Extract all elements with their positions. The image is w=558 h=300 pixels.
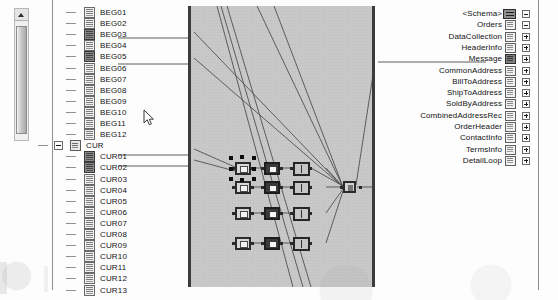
field-mapped-icon [84, 51, 95, 62]
tree-item-label: BEG09 [100, 97, 127, 106]
tree-item-label: CUR03 [100, 175, 127, 184]
target-item-commonaddress[interactable]: CommonAddress [378, 65, 530, 77]
field-icon [84, 129, 95, 140]
field-icon [84, 118, 95, 129]
canvas-node-n2[interactable] [264, 162, 280, 175]
tree-item-label: BEG01 [100, 8, 127, 17]
selection-handle[interactable] [240, 178, 244, 182]
scroll-up-button[interactable] [15, 9, 28, 21]
target-expander-expand-icon[interactable] [522, 55, 530, 63]
field-icon [84, 218, 95, 229]
field-mapped-icon [84, 162, 95, 173]
tree-item-label: CUR13 [100, 286, 127, 295]
canvas-node-n7[interactable] [235, 207, 251, 220]
selection-handle[interactable] [252, 167, 256, 171]
node-input-port[interactable] [232, 212, 235, 215]
tree-connector-line [66, 34, 76, 35]
target-expander-collapse-icon[interactable] [522, 10, 530, 18]
target-item-soldbyaddress[interactable]: SoldByAddress [378, 98, 530, 110]
target-item-orderheader[interactable]: OrderHeader [378, 121, 530, 133]
tree-item-label: BEG05 [100, 52, 127, 61]
node-output-port[interactable] [309, 242, 312, 245]
selection-handle[interactable] [240, 155, 244, 159]
target-item-orders[interactable]: Orders [378, 19, 530, 31]
canvas-node-n8[interactable] [264, 207, 280, 220]
target-expander-collapse-icon[interactable] [522, 21, 530, 29]
source-schema-tree[interactable]: BEG01BEG02BEG03BEG04BEG05BEG06BEG07BEG08… [52, 0, 190, 300]
target-expander-expand-icon[interactable] [522, 123, 530, 131]
node-output-port[interactable] [309, 167, 312, 170]
chevron-up-icon [18, 13, 24, 17]
node-input-port[interactable] [261, 186, 264, 189]
tree-item-label: BEG12 [100, 130, 127, 139]
target-item-headerinfo[interactable]: HeaderInfo [378, 42, 530, 54]
target-expander-expand-icon[interactable] [522, 134, 530, 142]
canvas-node-n9[interactable] [293, 207, 310, 221]
node-output-port[interactable] [309, 186, 312, 189]
target-item-shiptoaddress[interactable]: ShipToAddress [378, 87, 530, 99]
selection-handle[interactable] [229, 167, 233, 171]
canvas-node-n10[interactable] [235, 237, 251, 250]
target-item-datacollection[interactable]: DataCollection [378, 31, 530, 43]
node-input-port[interactable] [340, 186, 343, 189]
selection-handle[interactable] [252, 156, 256, 160]
node-output-port[interactable] [359, 186, 362, 189]
node-input-port[interactable] [290, 212, 293, 215]
canvas-node-n3[interactable] [293, 162, 310, 176]
selection-handle[interactable] [229, 177, 233, 181]
target-expander-expand-icon[interactable] [522, 44, 530, 52]
node-input-port[interactable] [232, 186, 235, 189]
node-input-port[interactable] [261, 167, 264, 170]
target-item-label: Orders [477, 20, 502, 29]
node-input-port[interactable] [290, 167, 293, 170]
node-output-port[interactable] [251, 212, 254, 215]
scrollbar-thumb[interactable] [16, 26, 27, 134]
selection-handle[interactable] [229, 156, 233, 160]
canvas-node-n4[interactable] [235, 181, 251, 194]
node-output-port[interactable] [280, 212, 283, 215]
target-expander-expand-icon[interactable] [522, 67, 530, 75]
node-output-port[interactable] [280, 242, 283, 245]
target-item-schema[interactable]: <Schema> [378, 8, 530, 20]
node-output-port[interactable] [309, 212, 312, 215]
canvas-node-n12[interactable] [293, 237, 310, 251]
target-expander-expand-icon[interactable] [522, 33, 530, 41]
node-input-port[interactable] [261, 212, 264, 215]
node-output-port[interactable] [251, 242, 254, 245]
canvas-node-n5[interactable] [264, 181, 280, 194]
node-input-port[interactable] [232, 242, 235, 245]
tree-connector-line [66, 234, 76, 235]
mapping-canvas[interactable] [188, 6, 375, 287]
target-expander-expand-icon[interactable] [522, 100, 530, 108]
node-output-port[interactable] [251, 186, 254, 189]
tree-connector-line [66, 68, 76, 69]
target-expander-expand-icon[interactable] [522, 157, 530, 165]
target-item-combinedaddressrec[interactable]: CombinedAddressRec [378, 110, 530, 122]
node-icon [505, 43, 516, 53]
node-output-port[interactable] [280, 167, 283, 170]
selection-handle[interactable] [252, 177, 256, 181]
canvas-node-n1[interactable] [235, 162, 251, 175]
target-expander-expand-icon[interactable] [522, 89, 530, 97]
target-expander-expand-icon[interactable] [522, 146, 530, 154]
target-item-termsinfo[interactable]: TermsInfo [378, 144, 530, 156]
target-item-contactinfo[interactable]: ContactInfo [378, 132, 530, 144]
tree-expander-collapse-icon[interactable] [54, 141, 63, 150]
target-item-detailloop[interactable]: DetailLoop [378, 155, 530, 167]
node-input-port[interactable] [290, 242, 293, 245]
canvas-node-n6[interactable] [293, 181, 310, 195]
target-schema-tree[interactable]: <Schema>OrdersDataCollectionHeaderInfoMe… [378, 0, 558, 300]
field-icon [84, 262, 95, 273]
node-input-port[interactable] [290, 186, 293, 189]
target-item-billtoaddress[interactable]: BillToAddress [378, 76, 530, 88]
canvas-node-n13[interactable] [343, 181, 356, 193]
node-input-port[interactable] [261, 242, 264, 245]
target-item-message[interactable]: Message [378, 53, 530, 65]
node-output-port[interactable] [280, 186, 283, 189]
source-tree-scrollbar[interactable] [14, 8, 29, 141]
target-expander-expand-icon[interactable] [522, 112, 530, 120]
canvas-node-n11[interactable] [264, 237, 280, 250]
target-item-label: DetailLoop [463, 156, 502, 165]
field-mapped-icon [84, 151, 95, 162]
target-expander-expand-icon[interactable] [522, 78, 530, 86]
